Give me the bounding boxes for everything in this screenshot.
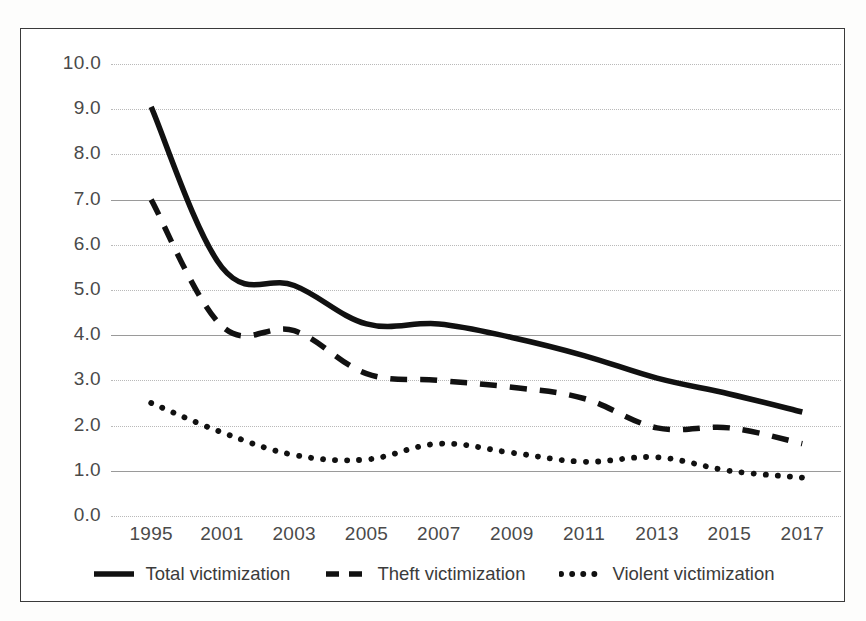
- x-axis-tick-label: 2017: [781, 523, 824, 545]
- legend-label: Violent victimization: [612, 563, 774, 585]
- chart-frame: 10.09.08.07.06.05.04.03.02.01.00.0 19952…: [20, 28, 845, 602]
- x-axis-tick-label: 2003: [272, 523, 315, 545]
- x-axis-tick-label: 2013: [635, 523, 678, 545]
- y-axis-tick-label: 4.0: [37, 323, 101, 345]
- gridline: [111, 516, 841, 517]
- y-axis-tick-label: 1.0: [37, 459, 101, 481]
- legend: Total victimizationTheft victimizationVi…: [21, 563, 846, 585]
- x-axis-tick-label: 2005: [345, 523, 388, 545]
- y-axis-tick-label: 7.0: [37, 188, 101, 210]
- legend-label: Total victimization: [145, 563, 290, 585]
- x-axis: 1995200120032005200720092011201320152017: [111, 523, 841, 553]
- series-line: [151, 200, 802, 444]
- plot-area: [111, 64, 841, 516]
- legend-entry: Total victimization: [92, 563, 290, 585]
- x-axis-tick-label: 2015: [708, 523, 751, 545]
- figure-canvas: 10.09.08.07.06.05.04.03.02.01.00.0 19952…: [0, 0, 866, 621]
- x-axis-tick-label: 2009: [490, 523, 533, 545]
- y-axis-tick-label: 9.0: [37, 97, 101, 119]
- y-axis-tick-label: 8.0: [37, 142, 101, 164]
- legend-swatch-solid-icon: [92, 567, 136, 581]
- y-axis-tick-label: 2.0: [37, 414, 101, 436]
- y-axis-tick-label: 0.0: [37, 504, 101, 526]
- x-axis-tick-label: 2011: [563, 523, 605, 545]
- legend-swatch-dashed-icon: [324, 567, 368, 581]
- y-axis-tick-label: 10.0: [37, 52, 101, 74]
- series-layer: [111, 64, 841, 516]
- legend-entry: Violent victimization: [559, 563, 774, 585]
- x-axis-tick-label: 1995: [129, 523, 172, 545]
- legend-entry: Theft victimization: [324, 563, 525, 585]
- legend-label: Theft victimization: [377, 563, 525, 585]
- series-line: [151, 403, 802, 478]
- series-line: [151, 107, 802, 412]
- x-axis-tick-label: 2001: [200, 523, 243, 545]
- y-axis-tick-label: 6.0: [37, 233, 101, 255]
- y-axis-tick-label: 3.0: [37, 368, 101, 390]
- legend-swatch-dotted-icon: [559, 567, 603, 581]
- y-axis-tick-label: 5.0: [37, 278, 101, 300]
- x-axis-tick-label: 2007: [417, 523, 460, 545]
- y-axis: 10.09.08.07.06.05.04.03.02.01.00.0: [35, 64, 101, 516]
